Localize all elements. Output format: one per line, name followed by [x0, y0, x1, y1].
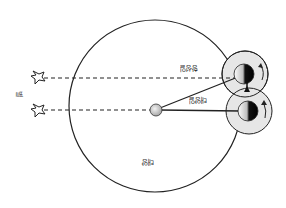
star-icon-1: [31, 71, 45, 84]
sun: [150, 104, 162, 116]
orbit-diagram: [0, 0, 286, 208]
star-label: 별: [16, 89, 23, 98]
star-icon-2: [31, 104, 45, 117]
sidereal-day-label: 항성일: [180, 64, 198, 71]
sun-label: 태양: [142, 158, 154, 165]
solar-day-label: 태양일: [189, 96, 207, 103]
